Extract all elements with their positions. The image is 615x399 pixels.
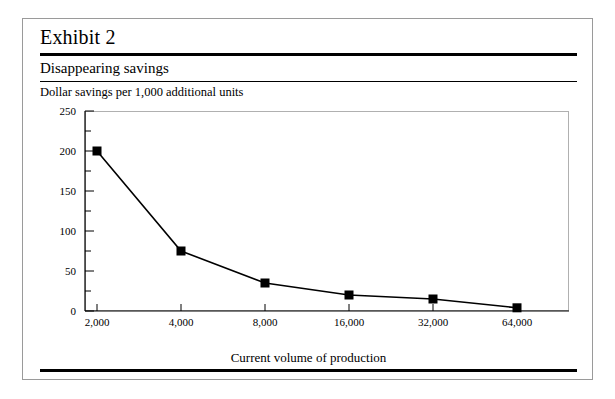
y-tick-label: 200 [42,146,76,157]
data-point-marker [345,291,354,300]
footer-rule-thick [40,369,577,372]
x-tick-label: 64,000 [482,317,552,328]
exhibit-page: Exhibit 2 Disappearing savings Dollar sa… [22,18,593,380]
header-rule-thick [40,53,577,56]
y-tick-label: 100 [42,226,76,237]
exhibit-subtitle: Disappearing savings [40,57,169,79]
x-axis-title: Current volume of production [40,349,577,367]
line-chart: 0501001502002502,0004,0008,00016,00032,0… [40,105,577,345]
x-tick-label: 8,000 [230,317,300,328]
exhibit-title: Exhibit 2 [40,25,116,49]
data-point-marker [429,295,438,304]
y-tick-label: 0 [42,306,76,317]
subtitle-rule-thin [40,81,577,82]
data-point-marker [261,279,270,288]
plot-svg [40,105,577,345]
x-tick-label: 16,000 [314,317,384,328]
y-axis-caption: Dollar savings per 1,000 additional unit… [40,83,243,102]
data-point-marker [513,303,522,312]
x-tick-label: 32,000 [398,317,468,328]
data-point-marker [93,147,102,156]
y-tick-label: 150 [42,186,76,197]
y-tick-label: 50 [42,266,76,277]
x-tick-label: 2,000 [62,317,132,328]
x-tick-label: 4,000 [146,317,216,328]
data-point-marker [177,247,186,256]
y-tick-label: 250 [42,106,76,117]
